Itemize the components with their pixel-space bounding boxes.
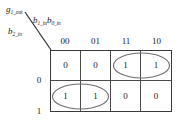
column-header-0: 00 <box>50 36 80 47</box>
kmap-cell-r1c1: 1 <box>81 81 111 111</box>
column-variable-base-1: b <box>33 15 38 25</box>
row-header-0: 0 <box>32 75 46 86</box>
kmap-cell-r1c0: 1 <box>51 81 81 111</box>
column-header-2: 11 <box>111 36 141 47</box>
row-header-1: 1 <box>32 106 46 117</box>
column-header-1: 01 <box>81 36 111 47</box>
kmap-cell-r0c0: 0 <box>51 51 81 81</box>
output-variable-base: g <box>6 4 11 14</box>
column-header-3: 10 <box>142 36 172 47</box>
kmap-cell-r1c3: 0 <box>141 81 171 111</box>
column-variable-subscript-1: 1_in <box>38 20 47 26</box>
kmap-cell-r0c2: 1 <box>111 51 141 81</box>
row-variable-label: b2_in <box>8 27 22 36</box>
output-variable-subscript: 1_out <box>11 9 23 15</box>
row-variable-subscript: 2_in <box>13 31 22 37</box>
kmap-cell-r0c3: 1 <box>141 51 171 81</box>
kmap-cell-r1c2: 0 <box>111 81 141 111</box>
kmap-grid: 0 0 1 1 1 1 0 0 <box>50 50 172 112</box>
output-variable-label: g1_out <box>6 5 23 14</box>
column-variable-label: b1_inb0_in <box>33 16 61 25</box>
row-variable-base: b <box>8 26 13 36</box>
karnaugh-map-diagram: g1_out b1_inb0_in b2_in 00 01 11 10 0 1 … <box>0 0 181 120</box>
kmap-cell-r0c1: 0 <box>81 51 111 81</box>
column-variable-subscript-0: 0_in <box>51 20 60 26</box>
